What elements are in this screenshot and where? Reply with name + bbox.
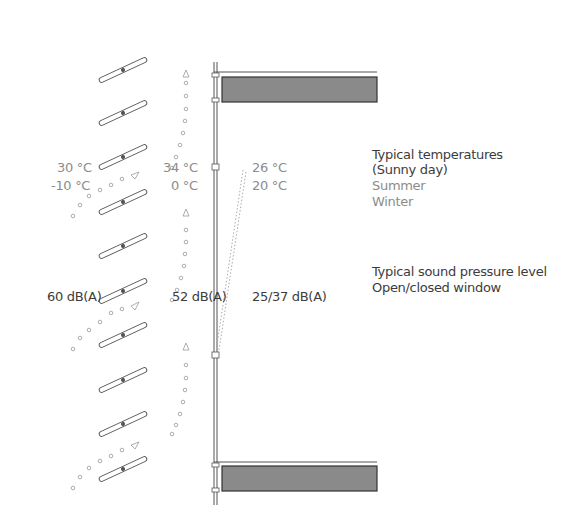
temp-inside-summer: 26 °C — [252, 160, 287, 175]
sound-outside: 60 dB(A) — [47, 289, 101, 304]
sound-inside: 25/37 dB(A) — [252, 289, 327, 304]
airflow-arrows — [131, 70, 189, 449]
floor-slab-bottom — [214, 462, 377, 491]
temp-outside-winter: -10 °C — [51, 178, 90, 193]
legend-sound-title: Typical sound pressure level — [372, 264, 547, 279]
floor-slab-top — [214, 72, 377, 102]
legend-summer: Summer — [372, 178, 425, 193]
legend-temperatures-title: Typical temperatures — [372, 147, 503, 162]
legend-sound-subtitle: Open/closed window — [372, 280, 501, 295]
inner-facade — [212, 62, 219, 505]
outer-louvres — [98, 57, 147, 483]
temp-inside-winter: 20 °C — [252, 178, 287, 193]
legend-winter: Winter — [372, 194, 413, 209]
transfer-dotted-line — [217, 170, 246, 350]
temp-outside-summer: 30 °C — [57, 160, 92, 175]
temp-cavity-summer: 34 °C — [163, 160, 198, 175]
legend-temperatures-subtitle: (Sunny day) — [372, 162, 448, 177]
temp-cavity-winter: 0 °C — [171, 178, 198, 193]
sound-cavity: 52 dB(A) — [172, 289, 226, 304]
